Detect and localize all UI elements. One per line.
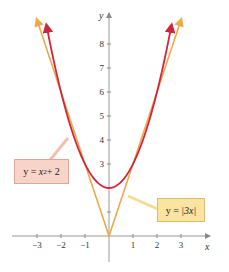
y-tick-label: 4 (100, 135, 105, 145)
parabola-curve-right (109, 26, 171, 188)
x-tick-label: 2 (155, 240, 160, 250)
x-tick-label: −2 (56, 240, 66, 250)
absval-label: y = |3x| (157, 198, 205, 222)
y-tick-label: 8 (100, 39, 105, 49)
chart-canvas: −3−2−1123 345678 x y (0, 0, 229, 272)
x-tick-label: 3 (179, 240, 184, 250)
absval-curve-left (37, 20, 109, 236)
parabola-rhs: + 2 (47, 166, 60, 177)
parabola-lhs: y = (23, 166, 36, 177)
x-tick-label: 1 (131, 240, 136, 250)
x-axis-label: x (204, 241, 210, 252)
absval-lhs: y = (166, 205, 179, 216)
y-tick-label: 3 (100, 159, 105, 169)
absval-inner: |3x| (181, 205, 196, 216)
y-tick-label: 7 (100, 63, 105, 73)
absval-leader (128, 196, 160, 210)
x-tick-label: −3 (32, 240, 42, 250)
y-axis-label: y (98, 10, 104, 21)
parabola-label: y = x2 + 2 (14, 159, 69, 184)
y-tick-label: 6 (100, 87, 105, 97)
x-tick-label: −1 (80, 240, 90, 250)
parabola-leader (50, 138, 68, 160)
y-tick-label: 5 (100, 111, 105, 121)
